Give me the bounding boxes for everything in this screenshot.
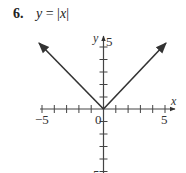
y-axis bbox=[100, 36, 108, 173]
y-max-label: 5 bbox=[106, 34, 113, 49]
x-min-label: −5 bbox=[35, 112, 49, 127]
x-axis-label: x bbox=[170, 94, 177, 108]
y-axis-label: y bbox=[92, 31, 99, 45]
origin-label: 0 bbox=[95, 112, 102, 127]
function-plot bbox=[39, 43, 166, 109]
y-min-label: 5 bbox=[93, 167, 100, 173]
x-axis bbox=[40, 105, 175, 113]
x-max-label: 5 bbox=[161, 112, 168, 127]
graph: −5 0 5 x y 5 5 bbox=[0, 0, 186, 173]
